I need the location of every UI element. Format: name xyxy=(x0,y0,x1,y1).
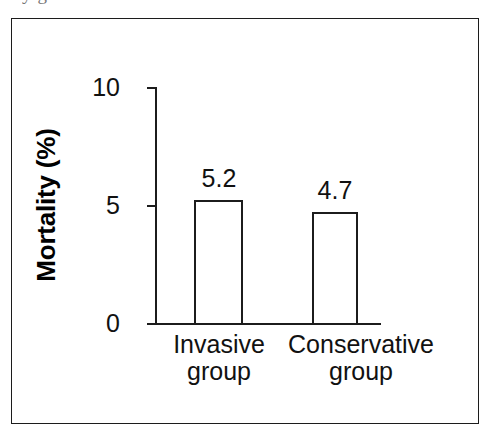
category-label-conservative-group-line1: Conservative xyxy=(275,331,447,358)
y-tick-label-5: 5 xyxy=(76,193,120,218)
y-tick-label-10: 10 xyxy=(76,75,120,100)
y-tick-10 xyxy=(147,87,155,89)
bar-value-invasive-group: 5.2 xyxy=(179,166,259,191)
bar-conservative-group xyxy=(312,212,358,323)
y-tick-5 xyxy=(147,205,155,207)
y-tick-0 xyxy=(147,323,155,325)
category-label-invasive-group-line1: Invasive xyxy=(153,331,285,358)
cutoff-text-strip: y g xyxy=(0,0,486,15)
x-axis-line xyxy=(155,323,381,325)
y-tick-label-0: 0 xyxy=(76,311,120,336)
bar-invasive-group xyxy=(194,200,243,323)
category-label-conservative-group-line2: group xyxy=(275,358,447,385)
figure-frame: 10 5 0 Mortality (%) 5.2 4.7 Invasive gr… xyxy=(11,18,479,424)
category-label-invasive-group-line2: group xyxy=(153,358,285,385)
bar-value-conservative-group: 4.7 xyxy=(295,178,375,203)
y-axis-line xyxy=(155,87,157,323)
cutoff-text: y g xyxy=(22,0,48,5)
category-label-invasive-group: Invasive group xyxy=(153,331,285,385)
y-axis-title: Mortality (%) xyxy=(30,89,62,321)
plot-area: 10 5 0 Mortality (%) 5.2 4.7 Invasive gr… xyxy=(12,19,478,423)
category-label-conservative-group: Conservative group xyxy=(275,331,447,385)
